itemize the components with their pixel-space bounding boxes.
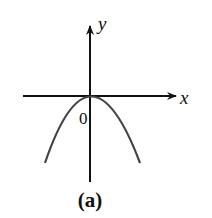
parabola-curve (45, 97, 140, 164)
x-axis-label: x (179, 87, 189, 108)
origin-label: 0 (79, 109, 88, 128)
y-axis-label: y (96, 13, 107, 34)
parabola-diagram: y x 0 (0, 0, 212, 218)
figure-caption: (a) (0, 188, 180, 213)
